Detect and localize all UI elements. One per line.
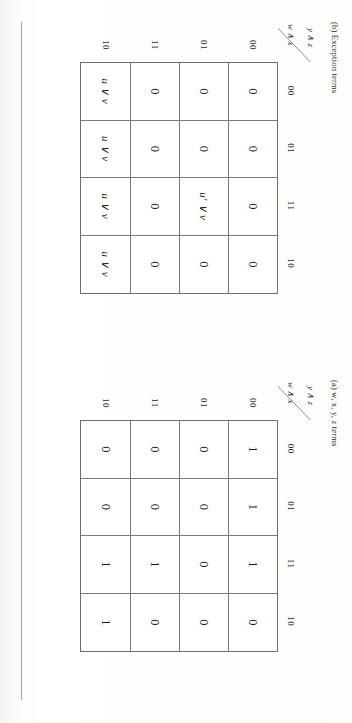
column-header: 10 [278,593,296,651]
kmap-cell: 0 [179,63,228,121]
figure-caption-a: (a) w, x, y, z terms [330,380,340,447]
kmap-cell: 0 [179,479,228,537]
row-axis-label-b: w ∧ x [286,24,296,46]
kmap-cell: u ∨ v [81,63,130,121]
kmap-cell: 1 [228,479,277,537]
figure-wxyz-terms: (a) w, x, y, z terms y ∧ z w ∧ x 00 01 1… [82,380,340,650]
kmap-cell: 0 [228,594,277,652]
kmap-cell: 0 [130,63,179,121]
scanned-page: (b) Exception terms y ∧ z w ∧ x 00 01 11… [0,0,352,723]
row-header: 01 [180,28,229,62]
figure-exception-terms: (b) Exception terms y ∧ z w ∧ x 00 01 11… [82,22,340,292]
kmap-cell: 0 [179,536,228,594]
column-headers-a: 00 01 11 10 [278,420,296,650]
column-header: 11 [278,535,296,593]
kmap-cell: 1 [81,594,130,652]
row-header: 11 [131,386,180,420]
kmap-cell: 0 [179,594,228,652]
kmap-cell: 0 [228,121,277,179]
karnaugh-map-grid-a: 1 1 1 0 0 0 0 0 0 0 1 0 0 0 1 1 [80,420,278,652]
kmap-cell: 0 [81,479,130,537]
row-axis-label-a: w ∧ x [286,382,296,404]
kmap-cell: u ∨ v [81,236,130,294]
column-header: 10 [278,235,296,293]
kmap-cell: 0 [130,594,179,652]
kmap-cell: 0 [130,121,179,179]
kmap-cell: 0 [81,421,130,479]
kmap-cell: 1 [130,536,179,594]
kmap-cell: 0 [130,236,179,294]
kmap-cell: 0 [130,479,179,537]
column-headers-b: 00 01 11 10 [278,62,296,292]
kmap-cell: 0 [228,63,277,121]
kmap-cell: 0 [179,236,228,294]
kmap-cell: 1 [228,421,277,479]
kmap-cell: u ∨ v [81,178,130,236]
kmap-cell: u ∨ v [81,121,130,179]
row-header: 10 [82,28,131,62]
karnaugh-map-grid-b: 0 0 0 0 0 0 u' ∨ v 0 0 0 0 0 u ∨ v u ∨ v… [80,62,278,294]
column-header: 01 [278,478,296,536]
kmap-cell: 0 [228,236,277,294]
column-axis-label-b: y ∧ z [306,28,316,47]
column-header: 11 [278,177,296,235]
row-header: 10 [82,386,131,420]
kmap-cell: 0 [130,421,179,479]
row-header: 01 [180,386,229,420]
column-axis-label-a: y ∧ z [306,386,316,405]
row-headers-a: 00 01 11 10 [82,386,278,420]
row-headers-b: 00 01 11 10 [82,28,278,62]
kmap-cell: 1 [81,536,130,594]
row-header: 00 [229,386,278,420]
kmap-cell: 0 [179,121,228,179]
column-header: 00 [278,62,296,120]
page-edge-rule [21,22,22,700]
kmap-cell: 0 [179,421,228,479]
kmap-cell: 0 [130,178,179,236]
kmap-cell: 0 [228,178,277,236]
figure-caption-b: (b) Exception terms [330,22,340,93]
kmap-cell: 1 [228,536,277,594]
column-header: 01 [278,120,296,178]
column-header: 00 [278,420,296,478]
row-header: 11 [131,28,180,62]
kmap-cell: u' ∨ v [179,178,228,236]
row-header: 00 [229,28,278,62]
